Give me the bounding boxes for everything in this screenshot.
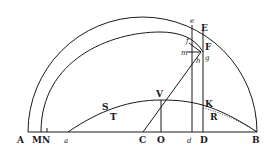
label-T: T [110, 112, 117, 122]
label-B: B [252, 135, 260, 145]
label-O: O [157, 135, 165, 145]
label-e: e [190, 17, 194, 25]
label-S: S [102, 102, 109, 112]
label-C: C [139, 135, 146, 145]
label-d: d [187, 137, 192, 145]
label-A: A [16, 135, 25, 145]
label-a: a [64, 137, 68, 145]
label-R: R [210, 112, 218, 122]
label-g: g [205, 54, 210, 62]
label-N: N [42, 135, 50, 145]
label-E: E [201, 23, 208, 33]
label-M: M [32, 135, 42, 145]
label-F: F [205, 42, 212, 52]
label-D: D [200, 135, 208, 145]
label-m: m [181, 49, 188, 57]
diagram-canvas: A M N a C O d D B e E f F m g h V K S T … [0, 0, 270, 154]
label-K: K [205, 99, 214, 109]
label-V: V [155, 89, 164, 99]
line-fF [189, 43, 201, 52]
label-h: h [196, 57, 201, 65]
